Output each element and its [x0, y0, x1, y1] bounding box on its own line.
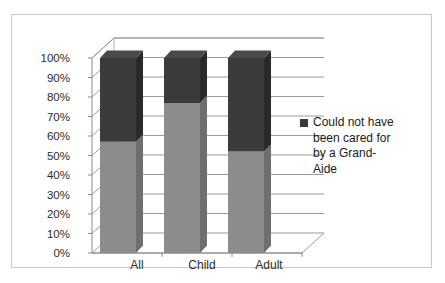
bar-child-segment-bottom-front [164, 103, 200, 253]
bar-all-top-cap [100, 51, 143, 58]
legend-label-line-4: Aide [313, 162, 394, 178]
bar-child-segment-top-front [164, 58, 200, 103]
y-tick-label-70: 70% [22, 111, 70, 123]
y-tick-label-10: 10% [22, 228, 70, 240]
x-axis-ticks [162, 253, 302, 257]
x-tick-label-all: All [102, 258, 172, 272]
y-tick-label-40: 40% [22, 169, 70, 181]
y-tick-label-80: 80% [22, 91, 70, 103]
y-axis-ticks [88, 58, 92, 253]
legend-label-line-1: Could not have [313, 115, 394, 131]
bar-adult-top-cap [228, 51, 271, 58]
y-axis-labels: 100% 90% 80% 70% 60% 50% 40% 30% 20% 10%… [18, 15, 70, 269]
bar-all-segment-top-front [100, 58, 136, 142]
bar-adult-segment-bottom-side [264, 144, 271, 253]
legend-label-line-3: by a Grand- [313, 146, 394, 162]
bar-adult-segment-top-side [264, 51, 271, 152]
y-tick-label-30: 30% [22, 189, 70, 201]
x-tick-label-child: Child [167, 258, 237, 272]
bar-all-segment-bottom-side [136, 134, 143, 253]
bar-adult-segment-bottom-front [228, 152, 264, 253]
legend-item: Could not have been cared for by a Grand… [300, 115, 426, 177]
y-tick-label-0: 0% [22, 247, 70, 259]
y-tick-label-100: 100% [22, 52, 70, 64]
chart-legend: Could not have been cared for by a Grand… [300, 115, 426, 177]
bar-group-adult [228, 51, 271, 253]
y-tick-label-50: 50% [22, 150, 70, 162]
bar-child-segment-bottom-side [200, 96, 207, 254]
y-tick-label-60: 60% [22, 130, 70, 142]
legend-item-label: Could not have been cared for by a Grand… [313, 115, 394, 177]
legend-swatch-icon [300, 119, 308, 127]
bar-child-top-cap [164, 51, 207, 58]
bar-group-all [100, 51, 143, 253]
y-tick-label-90: 90% [22, 72, 70, 84]
bar-all-segment-top-side [136, 51, 143, 142]
bar-all-segment-bottom-front [100, 142, 136, 253]
chart-frame: 100% 90% 80% 70% 60% 50% 40% 30% 20% 10%… [11, 14, 432, 268]
bar-adult-segment-top-front [228, 58, 264, 152]
bar-group-child [164, 51, 207, 253]
bar-child-segment-top-side [200, 51, 207, 103]
legend-label-line-2: been cared for [313, 131, 394, 147]
y-tick-label-20: 20% [22, 208, 70, 220]
x-tick-label-adult: Adult [234, 258, 304, 272]
